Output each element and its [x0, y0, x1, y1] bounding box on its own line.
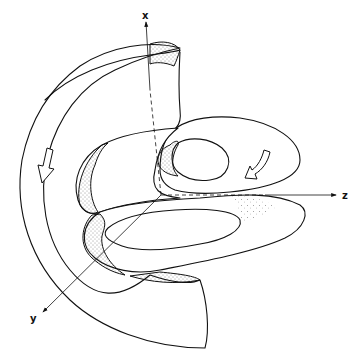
x-axis-label: x: [142, 10, 149, 21]
upper-right-loop: [158, 117, 300, 193]
attractor-surface-drawing: x z y: [0, 0, 359, 356]
z-axis-label: z: [342, 190, 348, 201]
lower-loop: [83, 195, 305, 283]
diagram-canvas: x z y: [0, 0, 359, 356]
y-axis-label: y: [30, 313, 37, 324]
